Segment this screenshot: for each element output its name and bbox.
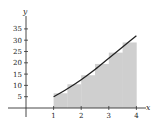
y-tick-label: 25 [13, 48, 22, 56]
step-rectangle [81, 75, 95, 108]
y-tick-label: 10 [13, 82, 22, 90]
x-tick-label: 3 [107, 112, 111, 120]
x-tick-label: 1 [51, 112, 55, 120]
step-rectangle [95, 64, 109, 108]
y-axis-label: y [22, 7, 28, 16]
step-rectangle [109, 53, 123, 108]
riemann-chart: 1234 5101520253035 x y [0, 0, 163, 126]
x-tick-label: 4 [134, 112, 139, 120]
shaded-region [54, 42, 137, 108]
y-tick-label: 20 [13, 59, 22, 67]
x-tick-label: 2 [79, 112, 83, 120]
y-tick-label: 30 [13, 37, 22, 45]
y-tick-label: 15 [13, 71, 22, 79]
step-rectangle [123, 42, 137, 108]
y-tick-label: 5 [18, 93, 22, 101]
x-axis-label: x [146, 103, 151, 112]
y-tick-label: 35 [13, 25, 22, 33]
